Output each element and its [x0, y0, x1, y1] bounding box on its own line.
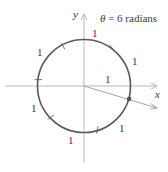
arc-label-4: 1: [31, 102, 37, 114]
y-axis-label: y: [72, 8, 78, 20]
radian-ticks: [35, 43, 132, 134]
unit-circle-diagram: y x θ = 6 radians 1 1 1 1 1 1 1: [0, 0, 168, 172]
arc-label-1: 1: [132, 55, 138, 67]
radius-label: 1: [105, 73, 111, 85]
terminal-ray: [84, 86, 157, 108]
terminal-point: [127, 97, 131, 101]
arc-label-2: 1: [92, 27, 98, 39]
arc-label-5: 1: [68, 134, 74, 146]
angle-title: θ = 6 radians: [100, 12, 157, 24]
arc-label-6: 1: [119, 122, 125, 134]
x-axis-label: x: [154, 88, 160, 100]
arc-label-3: 1: [37, 46, 43, 58]
